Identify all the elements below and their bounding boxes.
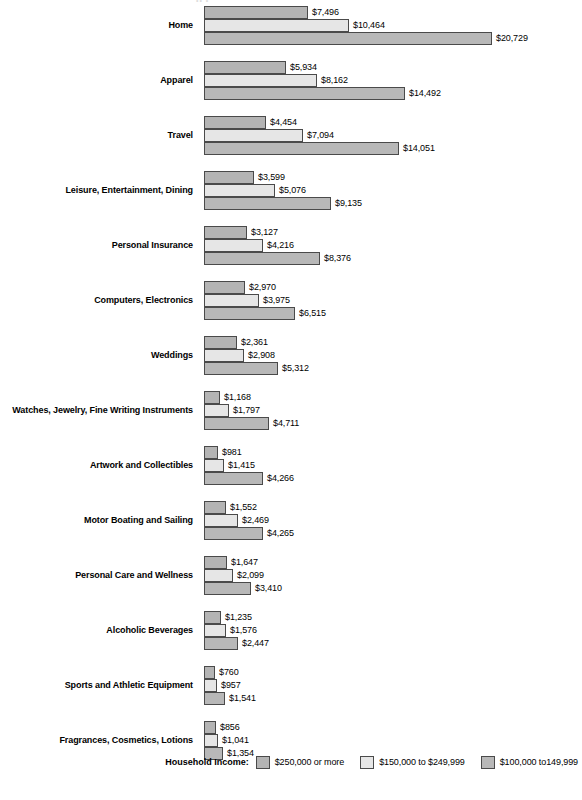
category-label: Artwork and Collectibles [0, 446, 197, 486]
swatch-series-2 [360, 756, 374, 769]
bar-series-1[interactable] [204, 116, 266, 129]
bar-series-3[interactable] [204, 307, 295, 320]
category-label: Home [0, 6, 197, 46]
legend-item-label: $150,000 to $249,999 [379, 757, 465, 767]
bar-row: $760 [204, 666, 582, 679]
bar-value-label: $14,492 [405, 87, 441, 100]
bar-value-label: $4,711 [269, 417, 299, 430]
bar-series-1[interactable] [204, 666, 215, 679]
category-group: Watches, Jewelry, Fine Writing Instrumen… [0, 391, 582, 431]
bar-value-label: $2,447 [238, 637, 269, 650]
top-clipped-artifact: •• • [196, 0, 209, 4]
bar-value-label: $1,647 [227, 556, 258, 569]
bar-series-3[interactable] [204, 142, 399, 155]
bar-series-2[interactable] [204, 129, 303, 142]
bar-value-label: $1,797 [229, 404, 260, 417]
legend-item-label: $250,000 or more [275, 757, 344, 767]
bar-row: $1,647 [204, 556, 582, 569]
category-label: Weddings [0, 336, 197, 376]
bar-series-3[interactable] [204, 197, 331, 210]
bar-series-1[interactable] [204, 171, 254, 184]
bar-series-3[interactable] [204, 637, 238, 650]
bar-series-2[interactable] [204, 404, 229, 417]
bar-series-2[interactable] [204, 19, 349, 32]
bar-row: $2,469 [204, 514, 582, 527]
bar-value-label: $2,970 [245, 281, 276, 294]
bar-series-3[interactable] [204, 362, 278, 375]
bars-wrapper: $1,552$2,469$4,265 [204, 501, 582, 541]
bar-value-label: $1,415 [224, 459, 255, 472]
bar-value-label: $1,576 [226, 624, 257, 637]
bar-row: $2,099 [204, 569, 582, 582]
bar-series-2[interactable] [204, 734, 218, 747]
category-label: Personal Insurance [0, 226, 197, 266]
bar-series-3[interactable] [204, 472, 263, 485]
category-label: Sports and Athletic Equipment [0, 666, 197, 706]
bars-wrapper: $760$957$1,541 [204, 666, 582, 706]
bar-row: $8,162 [204, 74, 582, 87]
bar-series-2[interactable] [204, 184, 275, 197]
bar-series-3[interactable] [204, 252, 320, 265]
bar-row: $8,376 [204, 252, 582, 265]
bar-value-label: $10,464 [349, 19, 385, 32]
bar-row: $4,265 [204, 527, 582, 540]
bar-series-2[interactable] [204, 514, 238, 527]
bar-series-3[interactable] [204, 692, 225, 705]
bar-row: $3,410 [204, 582, 582, 595]
bar-series-2[interactable] [204, 569, 233, 582]
bar-row: $4,711 [204, 417, 582, 430]
bar-row: $2,447 [204, 637, 582, 650]
bar-series-1[interactable] [204, 446, 218, 459]
bar-series-3[interactable] [204, 32, 492, 45]
bar-series-2[interactable] [204, 74, 317, 87]
bar-value-label: $2,908 [244, 349, 275, 362]
bar-series-2[interactable] [204, 239, 263, 252]
bar-row: $856 [204, 721, 582, 734]
bar-series-2[interactable] [204, 349, 244, 362]
bar-value-label: $7,094 [303, 129, 334, 142]
bar-series-1[interactable] [204, 6, 308, 19]
bars-wrapper: $1,168$1,797$4,711 [204, 391, 582, 431]
bar-series-1[interactable] [204, 721, 216, 734]
bar-row: $4,454 [204, 116, 582, 129]
bar-row: $3,127 [204, 226, 582, 239]
bar-series-1[interactable] [204, 226, 247, 239]
bar-value-label: $5,076 [275, 184, 306, 197]
bar-value-label: $8,162 [317, 74, 348, 87]
bars-wrapper: $2,361$2,908$5,312 [204, 336, 582, 376]
bar-series-2[interactable] [204, 294, 259, 307]
bar-series-3[interactable] [204, 87, 405, 100]
bar-series-1[interactable] [204, 611, 221, 624]
bar-value-label: $9,135 [331, 197, 362, 210]
bar-series-1[interactable] [204, 556, 227, 569]
bar-value-label: $3,410 [251, 582, 282, 595]
bar-series-1[interactable] [204, 281, 245, 294]
bar-value-label: $4,266 [263, 472, 294, 485]
bar-value-label: $1,041 [218, 734, 249, 747]
bar-series-1[interactable] [204, 501, 226, 514]
bar-series-1[interactable] [204, 391, 220, 404]
bar-series-3[interactable] [204, 527, 263, 540]
bar-row: $10,464 [204, 19, 582, 32]
bar-row: $20,729 [204, 32, 582, 45]
legend-item[interactable]: $150,000 to $249,999 [360, 756, 465, 769]
category-group: Motor Boating and Sailing$1,552$2,469$4,… [0, 501, 582, 541]
bar-series-1[interactable] [204, 61, 286, 74]
legend-item[interactable]: $100,000 to149,999 [481, 756, 578, 769]
bar-row: $7,094 [204, 129, 582, 142]
bar-row: $14,051 [204, 142, 582, 155]
bar-series-1[interactable] [204, 336, 237, 349]
bar-row: $2,908 [204, 349, 582, 362]
category-group: Weddings$2,361$2,908$5,312 [0, 336, 582, 376]
bar-row: $1,168 [204, 391, 582, 404]
bar-series-3[interactable] [204, 417, 269, 430]
bar-series-2[interactable] [204, 459, 224, 472]
bars-wrapper: $1,235$1,576$2,447 [204, 611, 582, 651]
bar-series-2[interactable] [204, 624, 226, 637]
bar-row: $5,076 [204, 184, 582, 197]
bar-series-3[interactable] [204, 582, 251, 595]
legend-title: Household Income: [165, 757, 249, 767]
bar-series-2[interactable] [204, 679, 217, 692]
legend-item[interactable]: $250,000 or more [256, 756, 344, 769]
category-group: Apparel$5,934$8,162$14,492 [0, 61, 582, 101]
